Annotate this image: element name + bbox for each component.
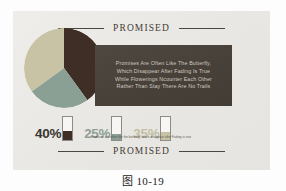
quote-line: Rather Than Stay There Are No Trails <box>117 83 211 91</box>
pie-slices <box>24 28 104 108</box>
quote-line: Promises Are Often Like The Butterfly, <box>116 60 211 68</box>
footer-rule-right <box>179 151 225 152</box>
poster-card: PROMISED Promises Are Often Like The But… <box>13 11 270 170</box>
header-rule-right <box>179 28 225 29</box>
quote-line: Which Disappear After Fading Is True <box>117 68 210 76</box>
header-brand-label: PROMISED <box>113 23 170 33</box>
page-background: PROMISED Promises Are Often Like The But… <box>0 0 286 191</box>
quote-panel: Promises Are Often Like The Butterfly, W… <box>95 45 232 106</box>
quote-line: While Flowerings Ncounter Each Other <box>115 76 212 84</box>
mini-caption-text: Promises are often like the butterfly, w… <box>13 135 270 139</box>
footer-rule-left <box>58 151 104 152</box>
footer-brand-label: PROMISED <box>113 146 170 156</box>
card-footer: PROMISED <box>13 145 270 157</box>
pie-chart <box>24 28 104 108</box>
figure-caption: 图 10-19 <box>0 172 286 188</box>
pie-chart-svg <box>24 28 104 108</box>
